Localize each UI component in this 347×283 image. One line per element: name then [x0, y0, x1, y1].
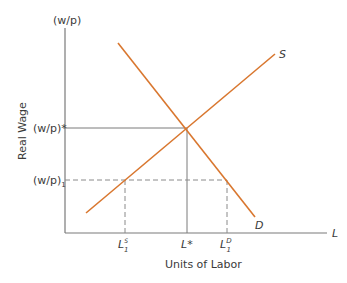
ld1-label: LD1 — [220, 237, 232, 254]
labor-market-chart: S D (w/p) Real Wage (w/p)* (w/p)1 L LS1 … — [0, 0, 347, 283]
x-axis-title: Units of Labor — [165, 258, 242, 271]
y-axis-top-label: (w/p) — [53, 14, 81, 27]
demand-label: D — [255, 219, 263, 232]
x-axis-end-label: L — [332, 227, 338, 240]
wage-star-label: (w/p)* — [33, 122, 67, 135]
ls1-label: LS1 — [118, 237, 128, 254]
wage1-label: (w/p)1 — [33, 174, 66, 189]
supply-curve — [86, 54, 275, 213]
lstar-label: L* — [181, 238, 193, 251]
supply-label: S — [279, 48, 286, 61]
y-axis-title: Real Wage — [16, 102, 29, 160]
